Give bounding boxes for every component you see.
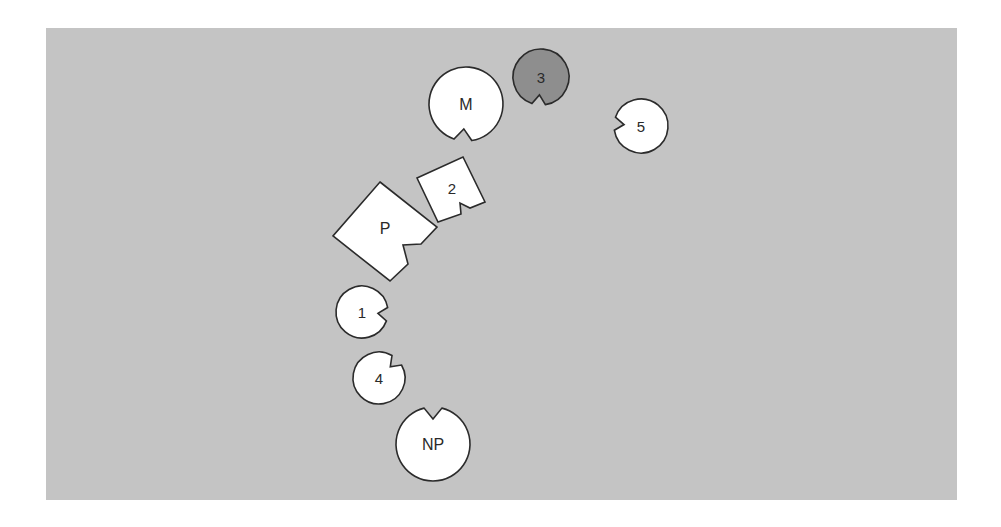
notched-circle-np: NP <box>396 408 470 481</box>
circle-label: 1 <box>358 304 366 321</box>
notched-circle-1: 1 <box>336 286 388 338</box>
diagram-canvas: P2M3514NP <box>0 0 1001 527</box>
square-label: P <box>380 220 391 237</box>
circle-label: 5 <box>637 118 645 135</box>
notched-circle-5: 5 <box>614 99 668 153</box>
circle-label: 4 <box>375 370 383 387</box>
circle-label: 3 <box>537 69 545 86</box>
notched-circle-3: 3 <box>513 49 569 105</box>
circle-label: M <box>459 96 472 113</box>
square-label: 2 <box>448 180 456 197</box>
circle-label: NP <box>422 436 444 453</box>
notched-circle-m: M <box>429 67 503 141</box>
